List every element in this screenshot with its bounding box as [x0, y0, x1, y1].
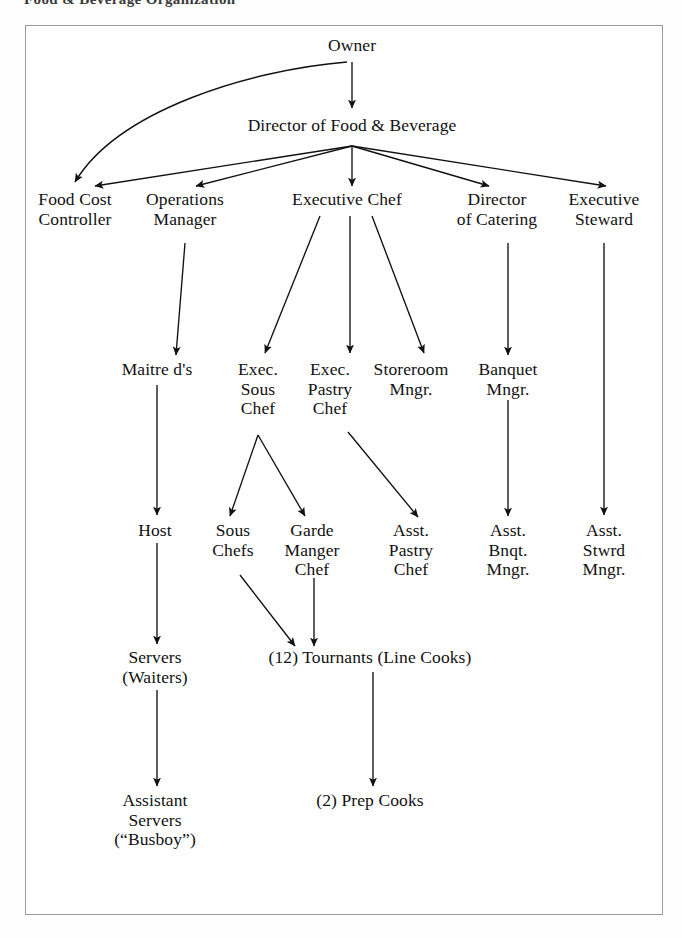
- node-asst-stwrd-mngr[interactable]: Asst. Stwrd Mngr.: [583, 521, 626, 580]
- node-assistant-servers-busboy[interactable]: Assistant Servers (“Busboy”): [114, 791, 196, 850]
- chart-frame: [25, 25, 663, 915]
- node-garde-manger-chef[interactable]: Garde Manger Chef: [284, 521, 339, 580]
- node-servers-waiters[interactable]: Servers (Waiters): [122, 648, 188, 687]
- node-exec-pastry-chef[interactable]: Exec. Pastry Chef: [308, 360, 352, 419]
- node-prep-cooks[interactable]: (2) Prep Cooks: [316, 791, 423, 811]
- node-sous-chefs[interactable]: Sous Chefs: [212, 521, 253, 560]
- node-asst-pastry-chef[interactable]: Asst. Pastry Chef: [389, 521, 433, 580]
- node-asst-bnqt-mngr[interactable]: Asst. Bnqt. Mngr.: [487, 521, 530, 580]
- node-director-of-catering[interactable]: Director of Catering: [457, 190, 537, 229]
- node-executive-chef[interactable]: Executive Chef: [292, 190, 402, 210]
- node-host[interactable]: Host: [138, 521, 171, 541]
- node-banquet-mngr[interactable]: Banquet Mngr.: [478, 360, 537, 399]
- node-operations-manager[interactable]: Operations Manager: [146, 190, 224, 229]
- node-storeroom-mngr[interactable]: Storeroom Mngr.: [374, 360, 449, 399]
- node-food-cost-controller[interactable]: Food Cost Controller: [38, 190, 111, 229]
- node-director-of-food-and-beverage[interactable]: Director of Food & Beverage: [248, 116, 457, 136]
- node-owner[interactable]: Owner: [328, 36, 376, 56]
- node-maitre-d[interactable]: Maitre d's: [122, 360, 193, 380]
- node-executive-steward[interactable]: Executive Steward: [569, 190, 640, 229]
- node-exec-sous-chef[interactable]: Exec. Sous Chef: [238, 360, 278, 419]
- page-running-head: Food & Beverage Organization: [24, 0, 444, 7]
- node-tournants-line-cooks[interactable]: (12) Tournants (Line Cooks): [269, 648, 472, 668]
